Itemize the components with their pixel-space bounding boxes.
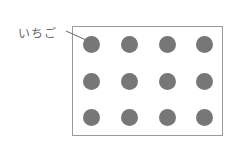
strawberry-dot [159,36,176,53]
strawberry-dot [196,36,213,53]
strawberry-dot [121,73,138,90]
strawberry-dot [159,109,176,126]
strawberry-dot [83,36,100,53]
strawberry-dot [196,109,213,126]
strawberry-dot [83,109,100,126]
strawberry-dot [83,73,100,90]
strawberry-dot [121,109,138,126]
strawberry-dot [121,36,138,53]
strawberry-dot [159,73,176,90]
strawberry-dot [196,73,213,90]
